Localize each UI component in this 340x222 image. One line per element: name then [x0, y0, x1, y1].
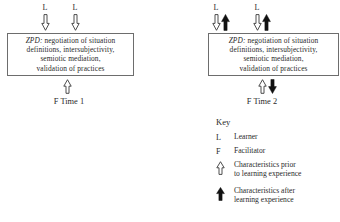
- filled-up-arrow-icon: [216, 187, 234, 201]
- hollow-up-arrow-icon: [216, 161, 234, 175]
- time1-zpd-text: ZPD: negotiation of situation definition…: [8, 36, 133, 74]
- time2-hollow-down-arrow-right: [253, 14, 262, 31]
- time1-hollow-up-arrow-bottom: [63, 79, 72, 94]
- key-title: Key: [216, 117, 230, 127]
- time2-zpd-prefix: ZPD:: [229, 36, 246, 45]
- key-row-after: Characteristics after learning experienc…: [216, 187, 340, 205]
- key-description-learner: Learner: [234, 133, 258, 142]
- time2-zpd-box: ZPD: negotiation of situation definition…: [208, 33, 339, 76]
- key-description-after: Characteristics after learning experienc…: [234, 187, 295, 205]
- key-symbol-facilitator-letter: F: [216, 147, 234, 157]
- time2-hollow-up-arrow-bottom: [258, 79, 267, 94]
- time2-filled-down-arrow-bottom: [268, 79, 277, 94]
- key-description-facilitator: Facilitator: [234, 147, 265, 156]
- time1-hollow-down-arrow-right: [71, 14, 80, 31]
- time2-filled-up-arrow-left: [221, 14, 230, 31]
- time2-learner-label-left: L: [210, 4, 222, 12]
- time1-caption: F Time 1: [39, 97, 99, 107]
- time2-hollow-down-arrow-left: [212, 14, 221, 31]
- key-symbol-learner-letter: L: [216, 133, 234, 143]
- time2-caption: F Time 2: [232, 97, 292, 107]
- time1-panel: L L ZPD: negotiation of situation defini…: [0, 0, 170, 111]
- time2-panel: L L ZPD: negotiation of si: [170, 0, 340, 111]
- time1-hollow-down-arrow-left: [41, 14, 50, 31]
- time1-zpd-box: ZPD: negotiation of situation definition…: [7, 33, 134, 76]
- key-description-prior: Characteristics prior to learning experi…: [234, 161, 301, 179]
- key-symbol-hollow-up-arrow-wrap: [216, 161, 234, 175]
- time1-learner-label-left: L: [39, 4, 51, 12]
- key-legend: Key L Learner F Facilitator Characterist…: [216, 117, 340, 222]
- time2-zpd-text: ZPD: negotiation of situation definition…: [209, 36, 338, 74]
- time1-learner-label-right: L: [69, 4, 81, 12]
- time2-learner-label-right: L: [251, 4, 263, 12]
- key-symbol-filled-up-arrow-wrap: [216, 187, 234, 201]
- figure-canvas: L L ZPD: negotiation of situation defini…: [0, 0, 340, 222]
- time2-filled-up-arrow-right: [262, 14, 271, 31]
- key-row-learner: L Learner: [216, 133, 340, 143]
- key-row-prior: Characteristics prior to learning experi…: [216, 161, 340, 179]
- key-row-facilitator: F Facilitator: [216, 147, 340, 157]
- time1-zpd-prefix: ZPD:: [26, 36, 43, 45]
